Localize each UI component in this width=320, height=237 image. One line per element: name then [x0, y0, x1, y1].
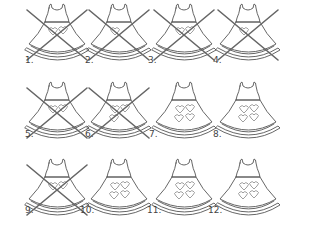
- cross-out-mark: [27, 165, 87, 215]
- item-number-label: 3.: [148, 56, 157, 65]
- heart-icon: [186, 182, 195, 189]
- item-number-label: 12.: [208, 206, 222, 215]
- item-number-label: 2.: [85, 56, 94, 65]
- heart-icon: [239, 192, 248, 199]
- dress-item-7: 7.: [152, 80, 218, 156]
- dress-item-6: 6.: [87, 80, 153, 156]
- dress-item-5: 5.: [25, 80, 91, 156]
- heart-icon: [111, 183, 120, 190]
- item-number-label: 9.: [25, 206, 34, 215]
- heart-icon: [186, 105, 195, 112]
- heart-icon: [240, 183, 249, 190]
- dress-icon: [152, 2, 218, 62]
- dress-icon: [216, 80, 282, 140]
- dress-icon: [216, 157, 282, 217]
- dress-item-9: 9.: [25, 157, 91, 233]
- heart-icon: [175, 192, 184, 199]
- heart-icon: [176, 183, 185, 190]
- heart-icon: [186, 191, 195, 198]
- cross-out-mark: [27, 10, 87, 60]
- heart-icon: [110, 192, 119, 199]
- item-number-label: 4.: [213, 56, 222, 65]
- cross-out-mark: [218, 10, 278, 60]
- heart-icon: [186, 114, 195, 121]
- heart-icon: [121, 182, 130, 189]
- dress-icon: [25, 80, 91, 140]
- cross-out-mark: [89, 88, 149, 138]
- dress-icon: [87, 80, 153, 140]
- item-number-label: 11.: [147, 206, 161, 215]
- heart-icon: [250, 114, 259, 121]
- dress-icon: [216, 2, 282, 62]
- dress-icon: [25, 2, 91, 62]
- cross-out-mark: [154, 10, 214, 60]
- item-number-label: 1.: [25, 56, 34, 65]
- dress-item-11: 11.: [152, 157, 218, 233]
- item-number-label: 8.: [213, 130, 222, 139]
- heart-icon: [121, 191, 130, 198]
- heart-icon: [110, 115, 119, 122]
- cross-out-mark: [89, 10, 149, 60]
- heart-icon: [240, 106, 249, 113]
- dress-icon: [152, 80, 218, 140]
- dress-item-8: 8.: [216, 80, 282, 156]
- dress-item-10: 10.: [87, 157, 153, 233]
- item-number-label: 10.: [80, 206, 94, 215]
- item-number-label: 5.: [25, 130, 34, 139]
- item-number-label: 6.: [85, 130, 94, 139]
- heart-icon: [175, 115, 184, 122]
- dress-item-3: 3.: [152, 2, 218, 78]
- dress-item-12: 12.: [216, 157, 282, 233]
- cross-out-mark: [27, 88, 87, 138]
- heart-icon: [239, 115, 248, 122]
- heart-icon: [250, 182, 259, 189]
- heart-icon: [250, 191, 259, 198]
- heart-icon: [176, 106, 185, 113]
- dress-icon: [87, 2, 153, 62]
- item-number-label: 7.: [149, 130, 158, 139]
- dress-icon: [87, 157, 153, 217]
- heart-icon: [250, 105, 259, 112]
- dress-item-4: 4.: [216, 2, 282, 78]
- dress-item-1: 1.: [25, 2, 91, 78]
- dress-item-2: 2.: [87, 2, 153, 78]
